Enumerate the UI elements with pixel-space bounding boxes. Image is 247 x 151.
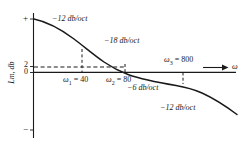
- breakpoint-label-omega-3: ω3 = 800: [164, 56, 193, 66]
- y-axis-label: Lm, db: [7, 53, 16, 93]
- y-tick-plus-label: +: [23, 14, 28, 23]
- omega-3-value: = 800: [173, 55, 194, 64]
- slope-label-3: −6 db/oct: [127, 84, 158, 92]
- slope-label-1: −12 db/oct: [52, 15, 87, 23]
- y-tick-minus-label: −: [23, 125, 28, 134]
- slope-label-4: −12 db/oct: [160, 104, 195, 112]
- x-axis-label: ω: [232, 63, 238, 71]
- breakpoint-label-omega-1: ω1 = 40: [63, 76, 88, 86]
- slope-label-2: −18 db/oct: [104, 37, 139, 45]
- breakpoint-label-omega-2: ω2 = 80: [106, 76, 131, 86]
- omega-2-value: = 80: [115, 75, 132, 84]
- omega-1-value: = 40: [72, 75, 89, 84]
- y-tick-0-label: 0: [24, 68, 28, 76]
- bode-plot-figure: Lm, db + 2 0 − ω −12 db/oct −18 db/oct −…: [0, 0, 247, 151]
- magnitude-response-curve: [34, 19, 237, 115]
- omega-arrow-head: [222, 65, 229, 71]
